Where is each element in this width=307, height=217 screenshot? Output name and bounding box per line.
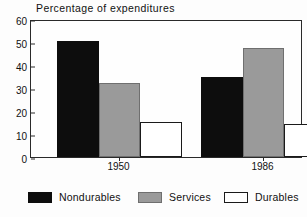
legend-swatch-icon	[138, 192, 162, 203]
y-axis-tick-label: 50	[16, 39, 27, 50]
legend-label: Nondurables	[59, 191, 121, 203]
y-axis-tick-label: 40	[16, 62, 27, 73]
legend-swatch-icon	[224, 192, 248, 203]
plot-area: 0102030405060	[30, 20, 302, 158]
legend-label: Durables	[255, 191, 299, 203]
legend-entry: Durables	[224, 188, 299, 206]
y-axis-tick-mark	[31, 159, 35, 160]
legend-entry: Nondurables	[28, 188, 121, 206]
y-axis-tick-label: 20	[16, 108, 27, 119]
bar	[57, 41, 99, 157]
bar	[99, 83, 141, 157]
bar	[201, 77, 243, 157]
bar	[140, 122, 182, 157]
bar	[284, 124, 307, 157]
chart-title: Percentage of expenditures	[36, 2, 175, 14]
legend-label: Services	[169, 191, 211, 203]
y-axis-tick-label: 10	[16, 131, 27, 142]
y-axis-tick-label: 0	[21, 154, 27, 165]
legend-swatch-icon	[28, 192, 52, 203]
bar-chart-figure: Percentage of expenditures 0102030405060…	[0, 0, 307, 217]
legend-entry: Services	[138, 188, 211, 206]
y-axis-tick-label: 30	[16, 85, 27, 96]
bar	[243, 48, 285, 157]
x-axis-group-label: 1986	[251, 161, 273, 172]
x-axis-group-label: 1950	[107, 161, 129, 172]
y-axis-tick-label: 60	[16, 16, 27, 27]
chart-legend: NondurablesServicesDurables	[28, 188, 300, 206]
bars-layer	[31, 21, 301, 157]
